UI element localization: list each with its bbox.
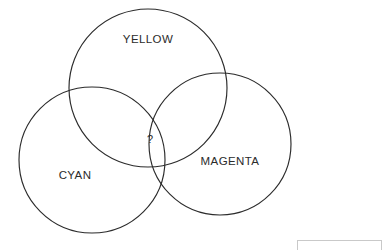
venn-circle-magenta (149, 73, 291, 215)
venn-center-question-mark: ? (147, 133, 153, 145)
venn-label-magenta: MAGENTA (201, 155, 260, 167)
venn-circle-cyan (19, 87, 165, 233)
venn-label-cyan: CYAN (59, 169, 92, 181)
venn-label-yellow: YELLOW (123, 33, 173, 45)
bottom-edge-panel (297, 240, 382, 250)
